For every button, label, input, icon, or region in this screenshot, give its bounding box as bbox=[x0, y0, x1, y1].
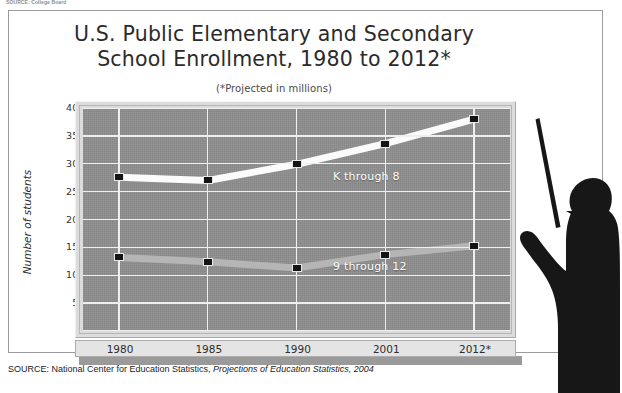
source-italic: Projections of Education Statistics, 200… bbox=[213, 364, 374, 374]
data-point-marker bbox=[292, 160, 302, 168]
series-label-k8: K through 8 bbox=[333, 170, 400, 183]
presenter-silhouette bbox=[506, 114, 622, 393]
x-axis-tick: 1980 bbox=[107, 343, 134, 355]
title-line-2: School Enrollment, 1980 to 2012* bbox=[49, 47, 499, 72]
data-point-marker bbox=[203, 176, 213, 184]
data-point-marker bbox=[469, 115, 479, 123]
data-point-marker bbox=[469, 242, 479, 250]
chart-subtitle: (*Projected in millions) bbox=[49, 83, 499, 94]
gridline-vertical bbox=[296, 108, 297, 331]
x-axis-tick: 1985 bbox=[195, 343, 222, 355]
y-axis-title: Number of students bbox=[21, 142, 33, 302]
title-line-1: U.S. Public Elementary and Secondary bbox=[74, 22, 474, 46]
page-title: U.S. Public Elementary and Secondary Sch… bbox=[49, 22, 499, 72]
person-body bbox=[520, 178, 620, 393]
top-credit: SOURCE: College Board bbox=[6, 0, 66, 5]
data-point-marker bbox=[292, 264, 302, 272]
data-point-marker bbox=[380, 251, 390, 259]
data-point-marker bbox=[203, 258, 213, 266]
pointer-stick bbox=[536, 118, 561, 228]
plot-area: K through 8 9 through 12 bbox=[83, 108, 510, 331]
x-axis-tick: 2001 bbox=[373, 343, 400, 355]
series-label-912: 9 through 12 bbox=[333, 260, 407, 273]
gridline-vertical bbox=[118, 108, 119, 331]
gridline-vertical bbox=[473, 108, 474, 331]
data-point-marker bbox=[114, 173, 124, 181]
source-prefix: SOURCE: National Center for Education St… bbox=[8, 364, 213, 374]
data-point-marker bbox=[380, 140, 390, 148]
x-axis-tick: 1990 bbox=[284, 343, 311, 355]
x-axis-tick: 2012* bbox=[459, 343, 491, 355]
data-point-marker bbox=[114, 253, 124, 261]
x-axis-bar: 19801985199020012012* bbox=[75, 340, 516, 357]
gridline-vertical bbox=[207, 108, 208, 331]
chart-panel: U.S. Public Elementary and Secondary Sch… bbox=[8, 10, 603, 353]
source-note: SOURCE: National Center for Education St… bbox=[8, 364, 374, 374]
